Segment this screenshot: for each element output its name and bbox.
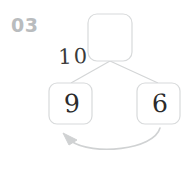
top-answer-box[interactable] — [88, 14, 132, 61]
connector-line-right — [110, 61, 158, 83]
curved-arrow-icon — [63, 128, 160, 149]
total-label: 10 — [58, 46, 89, 68]
right-number-value: 6 — [152, 91, 169, 117]
worksheet-problem: 03 10 9 6 — [0, 0, 188, 177]
left-number-value: 9 — [63, 91, 80, 117]
